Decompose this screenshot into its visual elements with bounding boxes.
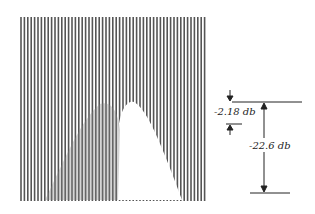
small-attenuation-label: -2.18 db: [214, 106, 256, 117]
large-attenuation-label: -22.6 db: [249, 140, 291, 151]
line-pattern-figure: [0, 0, 315, 214]
